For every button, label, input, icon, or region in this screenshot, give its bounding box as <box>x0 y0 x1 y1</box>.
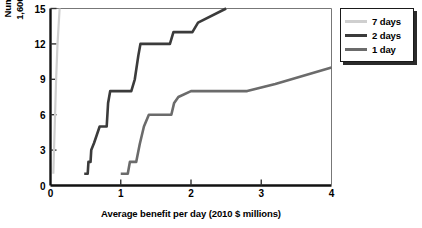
legend-swatch-icon <box>345 48 367 51</box>
x-tick-label: 0 <box>41 188 61 199</box>
y-tick-label: 9 <box>29 74 46 85</box>
data-series-group <box>53 9 331 174</box>
axis-frame <box>51 9 332 186</box>
legend-item-label: 2 days <box>372 30 401 41</box>
x-tick-label: 4 <box>322 188 342 199</box>
series-line-7-days <box>53 9 59 174</box>
x-tick-label: 2 <box>181 188 201 199</box>
legend-item-label: 1 day <box>372 44 396 55</box>
legend-item: 1 day <box>345 42 409 56</box>
y-tick-label: 6 <box>29 109 46 120</box>
legend-item: 7 days <box>345 14 409 28</box>
y-tick-label: 15 <box>29 3 46 14</box>
legend: 7 days2 days1 day <box>340 8 414 62</box>
axis-ticks <box>51 9 262 186</box>
series-line-1-day <box>121 68 332 174</box>
chart-container: Number of additional 1,600-gallon scoope… <box>0 0 422 228</box>
y-tick-label: 12 <box>29 38 46 49</box>
legend-item-label: 7 days <box>372 16 401 27</box>
legend-swatch-icon <box>345 20 367 23</box>
legend-item: 2 days <box>345 28 409 42</box>
x-tick-label: 1 <box>111 188 131 199</box>
legend-swatch-icon <box>345 34 367 37</box>
x-tick-label: 3 <box>251 188 271 199</box>
y-tick-label: 3 <box>29 145 46 156</box>
x-axis-label: Average benefit per day (2010 $ millions… <box>50 208 332 219</box>
